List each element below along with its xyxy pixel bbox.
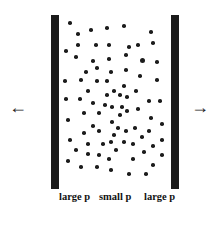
particle-dot [155, 78, 159, 82]
particle-dot [149, 30, 153, 34]
particle-dot [86, 152, 90, 156]
particle-dot [79, 165, 83, 169]
particle-dot [97, 129, 101, 133]
particle-dot [86, 142, 90, 146]
particle-dot [79, 78, 83, 82]
particle-dot [144, 172, 148, 176]
particle-dot [127, 172, 131, 176]
particle-dot [95, 79, 99, 83]
particle-dot [124, 68, 128, 72]
particle-dot [160, 153, 164, 157]
particle-dot [134, 89, 138, 93]
particle-dot [131, 142, 135, 146]
particle-dot [138, 74, 142, 78]
particle-dot [131, 157, 135, 161]
label-large-p-right: large p [144, 191, 175, 202]
particle-dot [97, 153, 101, 157]
particle-dot [66, 118, 70, 122]
right-arrow-icon: → [191, 98, 209, 116]
particle-dot [109, 70, 113, 74]
particle-dot [105, 79, 109, 83]
particle-dot [82, 111, 86, 115]
particle-dot [147, 99, 151, 103]
particle-dot [155, 60, 159, 64]
particle-dot [66, 159, 70, 163]
particle-dot [140, 58, 145, 63]
particle-dot [86, 89, 90, 93]
particle-dot [64, 49, 68, 53]
particle-dot [112, 89, 116, 93]
particle-dot [105, 26, 109, 30]
particle-dot [160, 122, 164, 126]
particle-dot [136, 43, 140, 47]
particle-dot [112, 133, 116, 137]
particle-dot [118, 93, 122, 97]
particle-dot [160, 138, 164, 142]
particle-dot [76, 32, 80, 36]
particle-dot [105, 93, 109, 97]
particle-dot [140, 135, 144, 139]
particle-dot [125, 95, 129, 99]
particle-dot [114, 148, 118, 152]
particle-dot [101, 142, 105, 146]
particle-dot [151, 163, 155, 167]
particle-dot [122, 84, 126, 88]
particle-dot [109, 168, 113, 172]
particle-dot [122, 24, 126, 28]
particle-dot [91, 101, 95, 105]
particle-dot [110, 105, 114, 109]
particle-dot [151, 144, 155, 148]
particle-dot [74, 55, 78, 59]
particle-dot [118, 113, 122, 117]
particle-dot [64, 97, 68, 101]
particle-dot [107, 57, 111, 61]
particle-dot [95, 165, 99, 169]
particle-dot [124, 129, 128, 133]
particle-dot [107, 157, 111, 161]
particle-dot [136, 107, 140, 111]
particle-dot [91, 59, 95, 63]
particle-dot [97, 111, 101, 115]
particle-dot [103, 103, 107, 107]
particle-dot [125, 109, 129, 113]
particle-dot [76, 43, 80, 47]
particle-dot [94, 43, 98, 47]
particle-dot [82, 131, 86, 135]
particle-dot [127, 45, 131, 49]
particle-dot [124, 53, 128, 57]
particle-dot [122, 140, 126, 144]
particle-dot [110, 120, 114, 124]
particle-dot [109, 140, 113, 144]
label-large-p-left: large p [59, 191, 90, 202]
left-arrow-icon: ← [9, 98, 27, 116]
particle-dot [116, 126, 120, 130]
particle-dot [74, 148, 78, 152]
particle-dot [84, 70, 88, 74]
particle-dot [120, 105, 124, 109]
particle-dot [91, 124, 95, 128]
particle-dot [68, 138, 72, 142]
particle-dot [149, 116, 153, 120]
particle-dot [68, 21, 72, 25]
particle-dot [78, 97, 82, 101]
particle-dot [107, 43, 111, 47]
particle-dot [151, 41, 155, 45]
particle-dot [95, 66, 99, 70]
particle-dot [158, 99, 162, 103]
particle-dot [63, 79, 67, 83]
particle-dot [147, 129, 151, 133]
particle-dot [142, 150, 146, 154]
particle-dot [133, 126, 137, 130]
label-small-p: small p [99, 191, 131, 202]
particle-dot [89, 28, 93, 32]
